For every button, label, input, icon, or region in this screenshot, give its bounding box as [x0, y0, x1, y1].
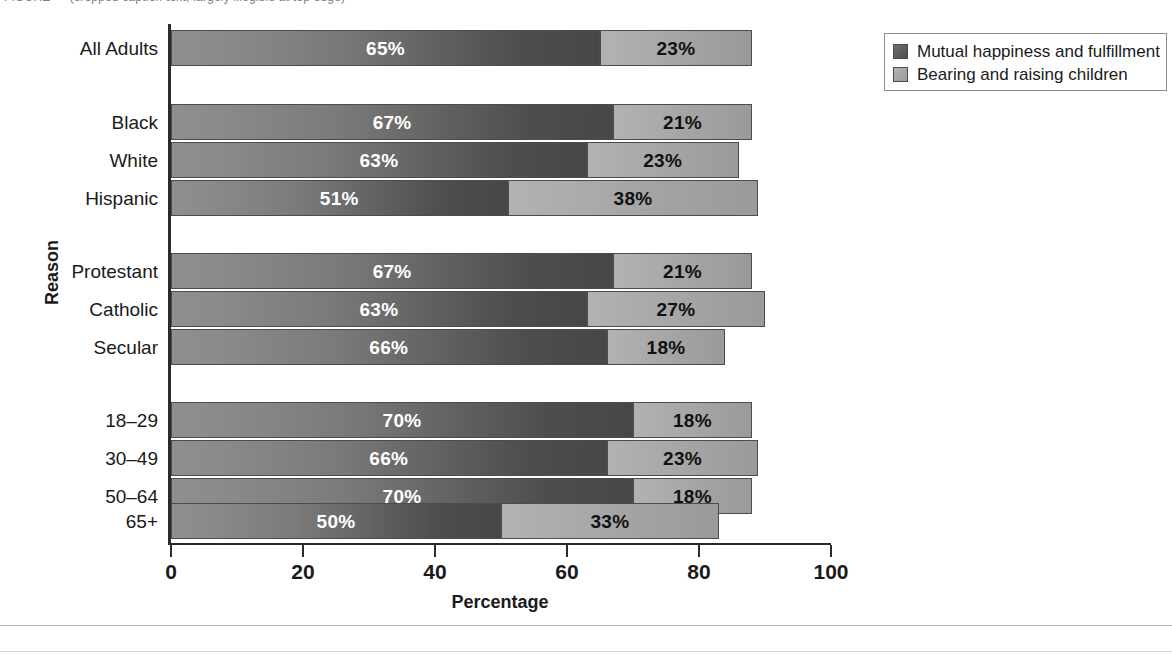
bar-segment-mutual[interactable]: 70% — [171, 402, 633, 438]
bar-segment-mutual[interactable]: 67% — [171, 104, 613, 140]
bar-segment-mutual[interactable]: 66% — [171, 329, 607, 365]
x-tick-label-40: 40 — [423, 560, 446, 584]
bar-segment-mutual[interactable]: 65% — [171, 30, 600, 66]
bar-value-label-children: 23% — [643, 151, 682, 170]
bar-value-label-mutual: 65% — [366, 39, 405, 58]
bar-segment-children[interactable]: 23% — [607, 440, 759, 476]
bar-value-label-mutual: 70% — [383, 411, 422, 430]
x-tick-label-80: 80 — [687, 560, 710, 584]
bar-value-label-mutual: 51% — [320, 189, 359, 208]
category-label-secular: Secular — [94, 337, 158, 359]
bar-segment-mutual[interactable]: 51% — [171, 180, 508, 216]
bar-segment-mutual[interactable]: 63% — [171, 291, 587, 327]
x-tick-label-60: 60 — [555, 560, 578, 584]
bar-segment-mutual[interactable]: 50% — [171, 503, 501, 539]
bar-segment-children[interactable]: 18% — [633, 402, 752, 438]
bar-value-label-children: 27% — [656, 300, 695, 319]
x-tick-label-100: 100 — [813, 560, 848, 584]
x-axis-title: Percentage — [0, 592, 1000, 613]
legend-item-mutual-happiness[interactable]: Mutual happiness and fulfillment — [893, 40, 1158, 63]
bar-value-label-mutual: 50% — [317, 512, 356, 531]
category-label-catholic: Catholic — [89, 299, 158, 321]
bar-segment-children[interactable]: 23% — [600, 30, 752, 66]
bar-value-label-children: 23% — [663, 449, 702, 468]
page-rule-primary — [0, 625, 1172, 626]
category-label-all-adults: All Adults — [80, 38, 158, 60]
x-tick-40 — [434, 545, 436, 557]
bar-segment-children[interactable]: 38% — [508, 180, 759, 216]
bar-segment-mutual[interactable]: 67% — [171, 253, 613, 289]
bar-segment-children[interactable]: 33% — [501, 503, 719, 539]
bar-value-label-children: 18% — [647, 338, 686, 357]
bar-value-label-children: 33% — [590, 512, 629, 531]
bar-segment-mutual[interactable]: 66% — [171, 440, 607, 476]
category-label-black: Black — [112, 112, 158, 134]
category-label-65-plus: 65+ — [126, 511, 158, 533]
bar-value-label-mutual: 67% — [373, 113, 412, 132]
category-label-white: White — [109, 150, 158, 172]
bar-value-label-children: 18% — [673, 411, 712, 430]
category-label-hispanic: Hispanic — [85, 188, 158, 210]
bar-value-label-mutual: 63% — [359, 300, 398, 319]
bar-segment-children[interactable]: 18% — [607, 329, 726, 365]
bar-value-label-mutual: 66% — [369, 338, 408, 357]
page-rule-secondary — [0, 651, 1172, 652]
bar-value-label-children: 38% — [614, 189, 653, 208]
legend-swatch-icon-mutual — [893, 44, 908, 59]
x-tick-60 — [566, 545, 568, 557]
bar-segment-mutual[interactable]: 63% — [171, 142, 587, 178]
x-axis-line — [168, 543, 831, 545]
bar-value-label-children: 21% — [663, 113, 702, 132]
stacked-bar-chart: Reason Percentage 0 20 40 60 80 100 All … — [0, 0, 1172, 654]
x-tick-label-0: 0 — [165, 560, 177, 584]
bar-value-label-children: 23% — [656, 39, 695, 58]
legend-item-bearing-children[interactable]: Bearing and raising children — [893, 63, 1158, 86]
category-label-30-49: 30–49 — [105, 448, 158, 470]
bar-value-label-mutual: 67% — [373, 262, 412, 281]
x-tick-20 — [302, 545, 304, 557]
legend-label-mutual: Mutual happiness and fulfillment — [917, 42, 1160, 62]
x-tick-0 — [170, 545, 172, 557]
bar-value-label-mutual: 66% — [369, 449, 408, 468]
x-tick-80 — [698, 545, 700, 557]
bar-segment-children[interactable]: 21% — [613, 253, 752, 289]
bar-segment-children[interactable]: 21% — [613, 104, 752, 140]
bar-segment-children[interactable]: 23% — [587, 142, 739, 178]
category-label-50-64: 50–64 — [105, 486, 158, 508]
category-label-protestant: Protestant — [71, 261, 158, 283]
legend: Mutual happiness and fulfillment Bearing… — [884, 33, 1167, 91]
x-tick-100 — [830, 545, 832, 557]
bar-segment-children[interactable]: 27% — [587, 291, 765, 327]
category-label-18-29: 18–29 — [105, 410, 158, 432]
legend-label-children: Bearing and raising children — [917, 65, 1128, 85]
bar-value-label-mutual: 63% — [359, 151, 398, 170]
y-axis-title: Reason — [42, 213, 63, 333]
legend-swatch-icon-children — [893, 67, 908, 82]
x-tick-label-20: 20 — [291, 560, 314, 584]
bar-value-label-children: 21% — [663, 262, 702, 281]
